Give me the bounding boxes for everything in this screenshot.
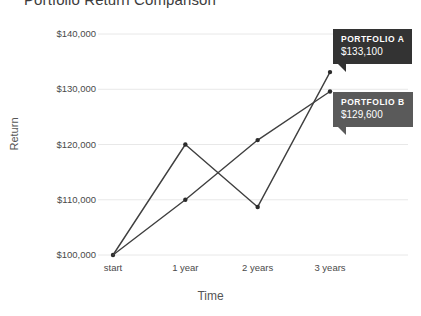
tooltip-portfolio-a-label: PORTFOLIO A bbox=[341, 34, 404, 45]
chart-container: Portfolio Return Comparison Return Time … bbox=[0, 0, 421, 316]
x-axis-tick-label: start bbox=[78, 262, 148, 273]
y-axis-tick-label: $130,000 bbox=[24, 83, 96, 94]
y-axis-tick-label: $140,000 bbox=[24, 28, 96, 39]
tooltip-pointer-icon bbox=[337, 126, 346, 135]
tooltip-portfolio-a-value: $133,100 bbox=[341, 46, 404, 59]
x-axis-tick-label: 2 years bbox=[223, 262, 293, 273]
data-point[interactable] bbox=[328, 70, 332, 74]
y-axis-tick-label: $100,000 bbox=[24, 249, 96, 260]
tooltip-portfolio-b-label: PORTFOLIO B bbox=[341, 97, 405, 108]
data-point[interactable] bbox=[255, 205, 259, 209]
y-axis-tick-label: $120,000 bbox=[24, 139, 96, 150]
data-point[interactable] bbox=[255, 138, 259, 142]
tooltip-portfolio-b-value: $129,600 bbox=[341, 109, 405, 122]
x-axis-tick-label: 1 year bbox=[150, 262, 220, 273]
tooltip-portfolio-b[interactable]: PORTFOLIO B $129,600 bbox=[333, 92, 413, 127]
data-point[interactable] bbox=[183, 198, 187, 202]
tooltip-pointer-icon bbox=[337, 63, 346, 72]
x-axis-tick-label: 3 years bbox=[295, 262, 365, 273]
series-line-portfolio-b[interactable] bbox=[113, 91, 330, 255]
series-line-portfolio-a[interactable] bbox=[113, 72, 330, 255]
data-point[interactable] bbox=[328, 89, 332, 93]
data-point[interactable] bbox=[183, 142, 187, 146]
tooltip-portfolio-a[interactable]: PORTFOLIO A $133,100 bbox=[333, 29, 412, 64]
y-axis-tick-label: $110,000 bbox=[24, 194, 96, 205]
